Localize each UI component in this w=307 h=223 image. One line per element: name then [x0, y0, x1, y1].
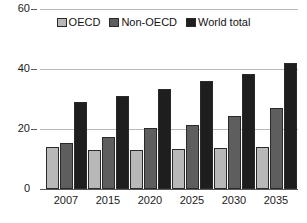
y-axis-tick-mark-60	[31, 9, 37, 10]
legend-swatch-nonoecd-icon	[109, 18, 119, 27]
x-axis-tick-label-2035: 2035	[249, 194, 303, 206]
bar-oecd-2007	[46, 147, 59, 189]
legend-label-oecd: OECD	[69, 17, 101, 28]
bar-oecd-2030	[214, 148, 227, 189]
bar-oecd-2020	[130, 150, 143, 189]
y-axis-tick-label-0: 0	[4, 183, 30, 194]
bar-world-2035	[284, 63, 297, 189]
plot-area	[40, 9, 298, 189]
y-axis-tick-20: 20	[0, 129, 40, 130]
y-axis-tick-mark-20	[31, 129, 37, 130]
y-axis-tick-label-20: 20	[4, 123, 30, 134]
y-axis-tick-60: 60	[0, 9, 40, 10]
y-axis-tick-label-60: 60	[4, 3, 30, 14]
bar-world-2030	[242, 74, 255, 190]
x-axis-baseline	[40, 189, 298, 190]
y-axis-tick-mark-40	[31, 69, 37, 70]
legend-label-world-total: World total	[198, 17, 250, 28]
legend-item-oecd: OECD	[57, 17, 101, 28]
bar-nonoecd-2020	[144, 128, 157, 189]
legend-item-world-total: World total	[186, 17, 250, 28]
bar-nonoecd-2035	[270, 108, 283, 189]
y-axis-tick-40: 40	[0, 69, 40, 70]
bar-oecd-2025	[172, 149, 185, 190]
chart-legend: OECD Non-OECD World total	[0, 17, 307, 28]
y-axis-tick-0: 0	[0, 189, 40, 190]
y-axis-tick-label-40: 40	[4, 63, 30, 74]
bar-oecd-2015	[88, 150, 101, 189]
bar-world-2020	[158, 89, 171, 190]
bar-chart: 60 40 20 0	[0, 0, 307, 223]
bar-world-2025	[200, 81, 213, 189]
legend-swatch-world-total-icon	[186, 18, 196, 27]
bar-world-2007	[74, 102, 87, 189]
bar-nonoecd-2030	[228, 116, 241, 190]
bar-world-2015	[116, 96, 129, 189]
bar-oecd-2035	[256, 147, 269, 189]
legend-swatch-oecd-icon	[57, 18, 67, 27]
bar-nonoecd-2025	[186, 125, 199, 190]
bar-nonoecd-2015	[102, 137, 115, 190]
legend-item-nonoecd: Non-OECD	[109, 17, 177, 28]
bar-nonoecd-2007	[60, 143, 73, 190]
legend-label-nonoecd: Non-OECD	[121, 17, 177, 28]
